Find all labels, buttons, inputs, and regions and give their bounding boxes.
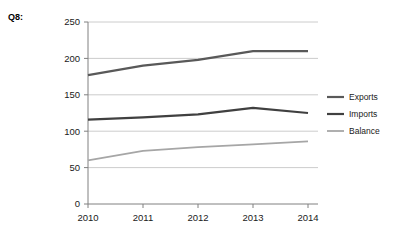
chart-figure: Q8: 050100150200250 20102011201220132014… [0,0,394,236]
series-line-balance [88,141,308,160]
y-tick-label: 200 [64,53,80,64]
series-line-exports [88,51,308,75]
y-tick-label: 50 [69,162,80,173]
x-tick-label: 2012 [187,212,208,223]
x-tick-label: 2011 [133,212,153,223]
gridlines [88,22,318,168]
line-chart: 050100150200250 20102011201220132014 Exp… [0,0,394,236]
x-axis-ticks: 20102011201220132014 [77,204,318,223]
y-axis-ticks: 050100150200250 [64,16,88,209]
legend-label-exports: Exports [349,92,378,102]
y-tick-label: 100 [64,126,80,137]
chart-legend: ExportsImportsBalance [327,92,380,136]
y-tick-label: 150 [64,89,80,100]
legend-label-balance: Balance [349,126,380,136]
series-line-imports [88,108,308,120]
x-tick-label: 2013 [242,212,263,223]
x-tick-label: 2014 [297,212,318,223]
legend-label-imports: Imports [349,109,377,119]
data-series-group [88,51,308,160]
chart-canvas: 050100150200250 20102011201220132014 Exp… [0,0,394,236]
x-tick-label: 2010 [77,212,98,223]
y-tick-label: 250 [64,16,80,27]
y-tick-label: 0 [75,198,80,209]
